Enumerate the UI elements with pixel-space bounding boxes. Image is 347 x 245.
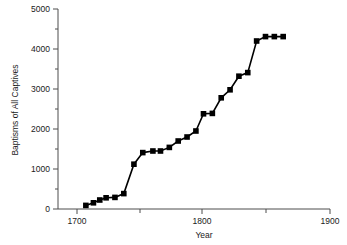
data-point-marker xyxy=(150,148,156,154)
series-markers-baptisms xyxy=(83,34,286,208)
data-point-marker xyxy=(97,197,103,203)
data-point-marker xyxy=(280,34,286,40)
data-point-marker xyxy=(272,34,278,40)
x-axis-title: Year xyxy=(195,230,212,240)
data-point-marker xyxy=(91,200,97,206)
y-tick-label-0: 0 xyxy=(45,204,50,214)
data-series-group xyxy=(83,34,286,208)
data-point-marker xyxy=(218,95,224,101)
y-tick-label-2000: 2000 xyxy=(31,124,50,134)
data-point-marker xyxy=(254,38,260,44)
data-point-marker xyxy=(263,34,269,40)
y-tick-label-3000: 3000 xyxy=(31,84,50,94)
line-chart: 0 1000 2000 3000 4000 5000 1700 1800 190… xyxy=(0,0,347,245)
x-axis-minor-ticks xyxy=(140,209,266,213)
data-point-marker xyxy=(158,148,164,154)
data-point-marker xyxy=(131,161,137,167)
data-point-marker xyxy=(140,150,146,156)
data-point-marker xyxy=(184,134,190,140)
y-tick-label-1000: 1000 xyxy=(31,164,50,174)
x-axis-major-ticks xyxy=(77,209,330,214)
x-tick-label-1900: 1900 xyxy=(321,216,340,226)
data-point-marker xyxy=(167,145,173,151)
data-point-marker xyxy=(103,195,109,201)
data-point-marker xyxy=(193,128,199,134)
chart-figure: 0 1000 2000 3000 4000 5000 1700 1800 190… xyxy=(0,0,347,245)
data-point-marker xyxy=(83,203,89,209)
y-axis-title: Baptisms of All Captives xyxy=(10,64,20,155)
data-point-marker xyxy=(201,111,207,117)
data-point-marker xyxy=(121,191,127,197)
data-point-marker xyxy=(175,138,181,144)
x-tick-label-1800: 1800 xyxy=(193,216,212,226)
data-point-marker xyxy=(245,70,251,76)
series-line-baptisms xyxy=(86,37,283,206)
data-point-marker xyxy=(112,195,118,201)
y-tick-label-5000: 5000 xyxy=(31,4,50,14)
data-point-marker xyxy=(210,111,216,117)
data-point-marker xyxy=(227,87,233,93)
y-tick-label-4000: 4000 xyxy=(31,44,50,54)
x-tick-label-1700: 1700 xyxy=(68,216,87,226)
data-point-marker xyxy=(236,73,242,79)
